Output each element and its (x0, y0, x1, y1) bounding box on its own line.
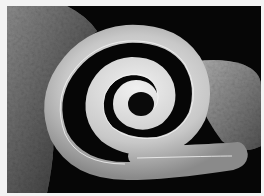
micrograph-frame (7, 6, 261, 193)
spiral-center (128, 92, 154, 116)
spiral-micrograph (7, 6, 261, 193)
